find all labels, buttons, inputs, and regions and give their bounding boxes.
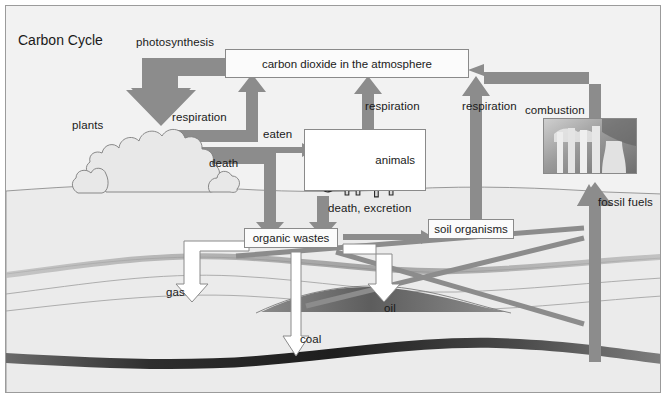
carbon-cycle-diagram: Carbon Cycle carbon dioxide in the atmos… bbox=[0, 0, 666, 398]
diagram-frame: Carbon Cycle carbon dioxide in the atmos… bbox=[5, 5, 661, 393]
edge-label-death-excretion: death, excretion bbox=[328, 202, 411, 215]
edge-label-respiration-plants: respiration bbox=[172, 111, 227, 124]
edge-label-death: death bbox=[209, 157, 238, 170]
node-animals[interactable]: animals bbox=[304, 129, 426, 191]
node-soil-organisms-label: soil organisms bbox=[434, 223, 508, 235]
node-gas-label: gas bbox=[166, 286, 185, 299]
node-soil-organisms[interactable]: soil organisms bbox=[428, 219, 514, 239]
node-combustion-image[interactable] bbox=[543, 118, 637, 174]
node-fossil-fuels-label: fossil fuels bbox=[598, 196, 653, 209]
node-coal-label: coal bbox=[300, 333, 322, 346]
node-atmosphere[interactable]: carbon dioxide in the atmosphere bbox=[225, 49, 469, 78]
edge-label-respiration-soil: respiration bbox=[462, 100, 517, 113]
node-organic-wastes-label: organic wastes bbox=[253, 232, 330, 244]
page-title: Carbon Cycle bbox=[18, 32, 103, 48]
edge-label-respiration-animals: respiration bbox=[365, 100, 420, 113]
edge-label-combustion: combustion bbox=[525, 104, 585, 117]
node-organic-wastes[interactable]: organic wastes bbox=[244, 228, 338, 248]
node-oil-label: oil bbox=[384, 302, 396, 315]
node-animals-label: animals bbox=[375, 154, 415, 166]
arrow-fossil-fuels-stem bbox=[589, 202, 601, 362]
node-plants-label: plants bbox=[72, 119, 103, 132]
node-atmosphere-label: carbon dioxide in the atmosphere bbox=[262, 58, 432, 70]
edge-label-eaten: eaten bbox=[263, 128, 292, 141]
edge-label-photosynthesis: photosynthesis bbox=[136, 36, 214, 49]
